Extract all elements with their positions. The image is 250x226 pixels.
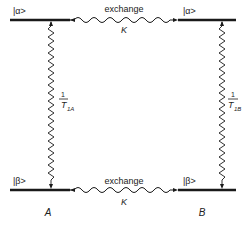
- state-label-beta-B: |β>: [183, 176, 196, 186]
- exchange-label-bottom: exchange: [104, 176, 143, 186]
- relaxation-rate-A: 1 T 1A: [59, 91, 74, 112]
- exchange-wave-top: [70, 18, 178, 23]
- state-label-beta-A: |β>: [13, 176, 26, 186]
- relaxation-zigzag-A: [48, 21, 54, 189]
- state-label-alpha-A: |α>: [13, 6, 26, 16]
- exchange-wave-bottom: [70, 188, 178, 193]
- relaxation-rate-B: 1 T 1B: [228, 91, 241, 112]
- relaxation-B-numerator: 1: [231, 91, 235, 98]
- exchange-label-top: exchange: [104, 4, 143, 14]
- relaxation-zigzag-B: [219, 21, 225, 189]
- exchange-rate-bottom: K: [121, 197, 128, 207]
- relaxation-A-subscript: 1A: [67, 106, 74, 112]
- relaxation-B-subscript: 1B: [234, 106, 241, 112]
- site-label-B: B: [199, 207, 206, 218]
- state-label-alpha-B: |α>: [183, 6, 196, 16]
- relaxation-A-numerator: 1: [61, 91, 65, 98]
- site-label-A: A: [44, 207, 52, 218]
- exchange-rate-top: K: [121, 25, 128, 35]
- exchange-relaxation-diagram: |α> |α> |β> |β> exchange K exchange K 1 …: [0, 0, 250, 226]
